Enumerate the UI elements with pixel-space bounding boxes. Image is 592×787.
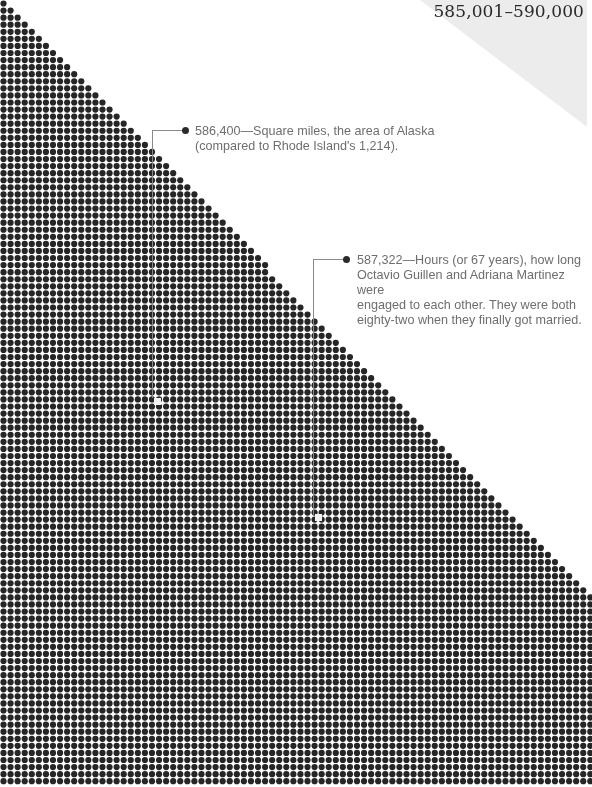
highlighted-dot-marker	[315, 514, 322, 521]
leader-line-vertical	[152, 130, 153, 398]
dot-grid	[0, 0, 592, 787]
leader-line-horizontal	[313, 259, 345, 260]
bullet-icon	[343, 256, 350, 263]
range-title: 585,001–590,000	[433, 1, 584, 21]
annotation-text: 586,400—Square miles, the area of Alaska…	[195, 124, 434, 154]
annotation-text: 587,322—Hours (or 67 years), how long Oc…	[357, 253, 592, 328]
bullet-icon	[182, 127, 189, 134]
leader-line-horizontal	[152, 130, 184, 131]
highlighted-dot-marker	[154, 398, 161, 405]
leader-line-vertical	[313, 259, 314, 515]
